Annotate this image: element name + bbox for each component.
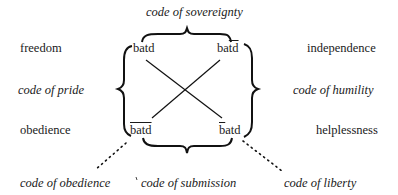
node-bottom-right-suffix: atd [225,123,240,137]
node-top-right: batd [217,41,239,55]
right-label-top: independence [307,41,376,55]
node-bottom-left: batd [130,123,152,137]
node-top-right-overlined: td [229,41,239,55]
node-bottom-left-overlined: batd [130,123,152,137]
left-label-top: freedom [20,41,62,55]
tick-mark [136,177,137,180]
right-brace [244,44,258,137]
right-code-label: code of humility [293,83,374,97]
dotted-line-left [95,143,126,170]
left-label-bottom: obedience [20,123,71,137]
node-top-right-prefix: ba [217,41,229,55]
node-top-left: batd [133,41,155,55]
diag-left-code-label: code of obedience [20,176,110,190]
node-top-left-text: batd [133,41,155,55]
bottom-brace [143,138,232,153]
diag-right-code-label: code of liberty [284,176,356,190]
dotted-line-right [243,141,282,171]
bottom-code-label: code of submission [141,176,236,190]
right-label-bottom: helplessness [316,123,378,137]
top-brace [142,28,231,42]
left-code-label: code of pride [18,83,84,97]
diagram-lines [0,0,398,195]
top-code-label: code of sovereignty [146,5,243,19]
node-bottom-right: batd [219,123,241,137]
